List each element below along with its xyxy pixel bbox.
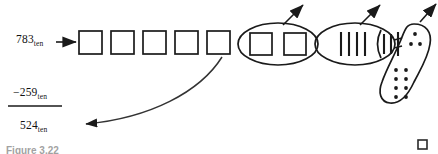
plain-box [207,31,230,54]
plain-box [175,31,198,54]
dot [394,68,398,72]
ellipse-with-boxes [238,5,318,65]
dot [404,77,408,81]
dot [413,32,417,36]
dot [394,86,398,90]
arrow-from-ellipse-boxes [283,5,303,25]
arrow-from-blob [420,4,436,22]
plain-box [79,31,102,54]
subtrahend-label: −259ten [13,86,47,98]
dot [404,68,408,72]
subtrahend-value: −259 [13,86,38,98]
figure-caption-text: Figure 3.22 [6,145,59,154]
plain-box [111,31,134,54]
minuend-base: ten [34,39,43,48]
dot [394,77,398,81]
dot [394,95,398,99]
blob-dot-cluster-upper [409,32,422,46]
minuend-label: 783ten [16,33,43,45]
dot [404,95,408,99]
corner-marker-square [418,140,427,149]
difference-label: 524ten [20,119,47,131]
plain-box [143,31,166,54]
arrow-curve-to-difference [86,57,222,124]
blob-outline [380,24,430,103]
figure-caption: Figure 3.22 [6,145,59,154]
dot [409,42,413,46]
blob-with-dots [380,4,436,103]
tally-mark-group [341,32,365,56]
grouped-box [250,33,272,55]
dot [404,86,408,90]
arrow-from-ellipse-tallies [360,5,380,25]
difference-base: ten [38,125,47,134]
minuend-value: 783 [16,33,34,45]
figure-container: 783ten −259ten 524ten Figure 3.22 [0,0,438,154]
dot [418,42,422,46]
plain-box-group [79,31,230,54]
diagram-canvas [0,0,438,154]
subtrahend-base: ten [38,92,47,101]
difference-value: 524 [20,119,38,131]
grouped-box [284,33,306,55]
blob-left-arc [378,30,382,58]
